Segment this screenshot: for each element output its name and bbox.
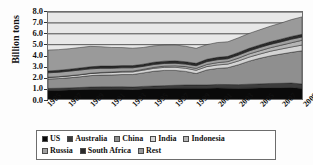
legend-row-2: RussiaSouth AfricaRest xyxy=(42,145,271,157)
y-tick-label: 7.0 xyxy=(32,18,43,27)
chart-figure: Billion tons 8.07.06.05.04.03.02.01.00.0… xyxy=(0,0,313,165)
y-axis-title: Billion tons xyxy=(10,0,21,83)
legend-item[interactable]: Indonesia xyxy=(183,135,224,143)
y-tick-label: 5.0 xyxy=(32,40,43,49)
legend-label: South Africa xyxy=(88,147,131,155)
y-tick-label: 3.0 xyxy=(32,62,43,71)
legend-swatch-icon xyxy=(80,148,86,154)
legend-item[interactable]: Australia xyxy=(67,135,107,143)
legend-label: US xyxy=(50,135,60,143)
x-axis-tick-labels: 1985198719891991199319951997199920012003… xyxy=(0,100,313,130)
legend-swatch-icon xyxy=(183,136,189,142)
legend-row-1: USAustraliaChinaIndiaIndonesia xyxy=(42,133,271,145)
legend-swatch-icon xyxy=(150,136,156,142)
stacked-area-svg xyxy=(48,12,302,99)
plot-area xyxy=(47,11,303,100)
chart-legend: USAustraliaChinaIndiaIndonesia RussiaSou… xyxy=(36,130,276,160)
y-tick-label: 8.0 xyxy=(32,7,43,16)
y-tick-label: 1.0 xyxy=(32,84,43,93)
legend-swatch-icon xyxy=(114,136,120,142)
legend-swatch-icon xyxy=(42,148,48,154)
area-series-group xyxy=(48,17,302,99)
legend-swatch-icon xyxy=(67,136,73,142)
legend-item[interactable]: US xyxy=(42,135,60,143)
y-axis-tick-labels: 8.07.06.05.04.03.02.01.00.0 xyxy=(22,0,46,110)
legend-label: Russia xyxy=(50,147,73,155)
y-tick-label: 6.0 xyxy=(32,29,43,38)
legend-label: China xyxy=(122,135,143,143)
legend-label: India xyxy=(158,135,176,143)
legend-swatch-icon xyxy=(42,136,48,142)
legend-label: Indonesia xyxy=(191,135,224,143)
y-tick-label: 4.0 xyxy=(32,51,43,60)
legend-item[interactable]: Russia xyxy=(42,147,73,155)
legend-label: Rest xyxy=(146,147,161,155)
legend-item[interactable]: India xyxy=(150,135,176,143)
legend-swatch-icon xyxy=(138,148,144,154)
legend-item[interactable]: South Africa xyxy=(80,147,131,155)
x-tick-label: 2009 xyxy=(302,92,313,109)
legend-item[interactable]: Rest xyxy=(138,147,161,155)
legend-item[interactable]: China xyxy=(114,135,143,143)
legend-label: Australia xyxy=(75,135,107,143)
y-tick-label: 2.0 xyxy=(32,73,43,82)
